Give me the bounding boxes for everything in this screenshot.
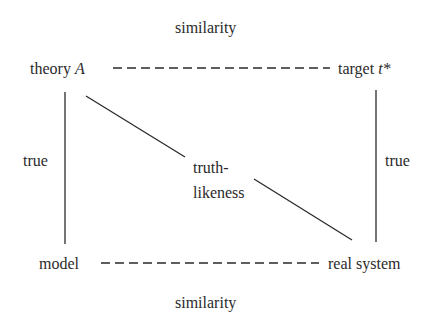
truthlikeness-line-upper [86,96,185,157]
node-target-var: t* [378,60,390,77]
node-theory-a: theory A [30,60,85,78]
true-label-left: true [23,152,48,170]
truthlikeness-line-lower [254,179,352,240]
node-real-system: real system [328,255,400,273]
node-theory-var: A [75,60,85,77]
truthlikeness-label-line1: truth- [193,159,229,177]
true-label-right: true [385,152,410,170]
similarity-label-top: similarity [175,19,236,37]
similarity-label-bottom: similarity [175,294,236,312]
node-model: model [39,255,79,273]
node-target-t: target t* [338,60,391,78]
truthlikeness-label-line2: likeness [193,184,245,202]
node-theory-text: theory [30,60,75,77]
node-target-text: target [338,60,378,77]
